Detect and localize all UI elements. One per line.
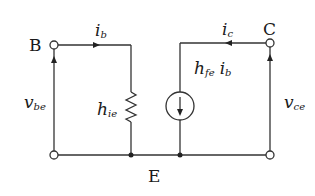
label-ic: ic bbox=[222, 21, 233, 39]
resistor-hie bbox=[126, 92, 136, 122]
label-vce: vce bbox=[284, 94, 305, 112]
label-hie: hie bbox=[97, 101, 117, 119]
label-vbe: vbe bbox=[24, 94, 46, 112]
terminal-e-right bbox=[266, 151, 274, 159]
label-terminal-b: B bbox=[29, 37, 42, 54]
label-terminal-c: C bbox=[263, 21, 276, 38]
junction-dot-left bbox=[129, 153, 134, 158]
arrow-ib-icon bbox=[93, 42, 100, 48]
label-ib: ib bbox=[95, 22, 107, 40]
arrow-ic-icon bbox=[225, 40, 232, 46]
arrow-vce-icon bbox=[267, 54, 273, 61]
junction-dot-right bbox=[178, 153, 183, 158]
label-hfe-ib: hfe ib bbox=[194, 60, 232, 78]
terminal-b bbox=[50, 41, 58, 49]
circuit-diagram: B C E ib ic vbe vce hie hfe ib bbox=[0, 0, 315, 196]
arrow-vbe-icon bbox=[51, 56, 57, 63]
current-source-arrow-icon bbox=[177, 109, 183, 116]
label-terminal-e: E bbox=[148, 168, 160, 185]
terminal-e-left bbox=[50, 151, 58, 159]
terminal-c bbox=[266, 39, 274, 47]
